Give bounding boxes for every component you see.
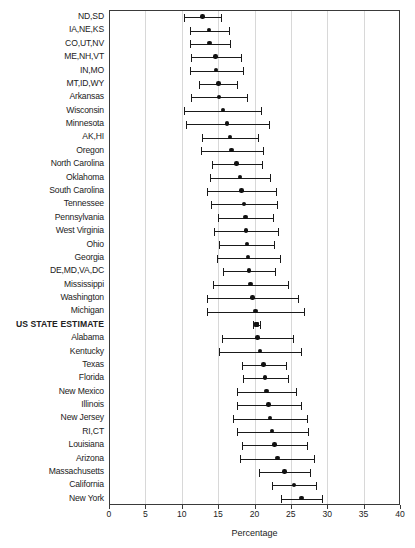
data-row[interactable] [110,413,399,425]
data-row[interactable] [110,373,399,385]
row-label: Georgia [74,253,104,262]
row-label: South Carolina [49,186,104,195]
point-estimate-marker[interactable] [239,188,243,192]
data-row[interactable] [110,145,399,157]
ci-lower-cap [207,295,208,303]
point-estimate-marker[interactable] [243,215,247,219]
ci-lower-cap [237,428,238,436]
point-estimate-marker[interactable] [264,389,268,393]
data-row[interactable] [110,400,399,412]
data-row[interactable] [110,253,399,265]
data-row[interactable] [110,333,399,345]
point-estimate-marker[interactable] [275,456,279,460]
point-estimate-marker[interactable] [213,54,217,58]
ci-lower-cap [237,402,238,410]
data-row[interactable] [110,279,399,291]
point-estimate-marker[interactable] [244,228,248,232]
ci-upper-cap [293,335,294,343]
data-row[interactable] [110,360,399,372]
x-tick-label: 25 [286,510,296,519]
ci-lower-cap [218,214,219,222]
data-row[interactable] [110,467,399,479]
row-label: New York [69,494,104,503]
ci-lower-cap [223,268,224,276]
point-estimate-marker[interactable] [234,161,238,165]
data-row[interactable] [110,38,399,50]
data-row[interactable] [110,226,399,238]
data-row[interactable] [110,132,399,144]
ci-upper-cap [269,121,270,129]
data-row[interactable] [110,25,399,37]
ci-lower-cap [201,147,202,155]
ci-upper-cap [286,362,287,370]
point-estimate-marker[interactable] [266,402,270,406]
ci-lower-cap [272,482,273,490]
row-label: Alabama [71,333,104,342]
ci-upper-cap [301,348,302,356]
ci-upper-cap [304,308,305,316]
x-axis: 0510152025303540 [109,505,400,529]
ci-lower-cap [219,348,220,356]
row-label: Arkansas [69,92,104,101]
point-estimate-marker[interactable] [253,309,257,313]
point-estimate-marker[interactable] [216,81,220,85]
data-row[interactable] [110,306,399,318]
point-estimate-marker[interactable] [263,375,267,379]
ci-lower-cap [259,469,260,477]
ci-lower-cap [191,94,192,102]
ci-upper-cap [262,161,263,169]
category-label-column: ND,SDIA,NE,KSCO,UT,NVME,NH,VTIN,MOMT,ID,… [0,0,104,548]
ci-lower-cap [207,188,208,196]
ci-upper-cap [261,107,262,115]
data-row[interactable] [110,293,399,305]
data-row[interactable] [110,159,399,171]
row-label: Illinois [81,400,104,409]
data-row[interactable] [110,453,399,465]
ci-upper-cap [308,428,309,436]
data-row[interactable] [110,65,399,77]
point-estimate-marker[interactable] [200,14,204,18]
data-row[interactable] [110,79,399,91]
data-row[interactable] [110,92,399,104]
data-row[interactable] [110,172,399,184]
data-row[interactable] [110,239,399,251]
point-estimate-marker[interactable] [250,295,254,299]
data-row[interactable] [110,52,399,64]
data-row[interactable] [110,186,399,198]
point-estimate-marker[interactable] [261,362,265,366]
data-row[interactable] [110,319,399,331]
data-row[interactable] [110,440,399,452]
point-estimate-marker[interactable] [242,202,246,206]
ci-lower-cap [190,27,191,35]
data-row[interactable] [110,493,399,505]
point-estimate-marker[interactable] [255,335,259,339]
data-row[interactable] [110,426,399,438]
point-estimate-marker[interactable] [245,242,249,246]
ci-lower-cap [214,228,215,236]
row-label: Ohio [86,240,104,249]
data-row[interactable] [110,105,399,117]
ci-upper-cap [288,375,289,383]
point-estimate-marker[interactable] [225,121,229,125]
ci-lower-cap [222,335,223,343]
data-row[interactable] [110,386,399,398]
ci-lower-cap [243,375,244,383]
data-row[interactable] [110,480,399,492]
data-row[interactable] [110,119,399,131]
row-label: New Jersey [61,413,104,422]
data-row[interactable] [110,212,399,224]
point-estimate-marker[interactable] [248,282,252,286]
data-row[interactable] [110,266,399,278]
data-row[interactable] [110,346,399,358]
point-estimate-marker[interactable] [272,442,276,446]
ci-lower-cap [233,415,234,423]
data-row[interactable] [110,199,399,211]
data-row[interactable] [110,12,399,24]
point-estimate-marker[interactable] [247,268,251,272]
ci-upper-cap [322,495,323,503]
point-estimate-marker[interactable] [282,469,286,473]
ci-lower-cap [199,81,200,89]
point-estimate-marker[interactable] [299,496,303,500]
point-estimate-marker[interactable] [254,322,259,327]
ci-upper-cap [278,228,279,236]
